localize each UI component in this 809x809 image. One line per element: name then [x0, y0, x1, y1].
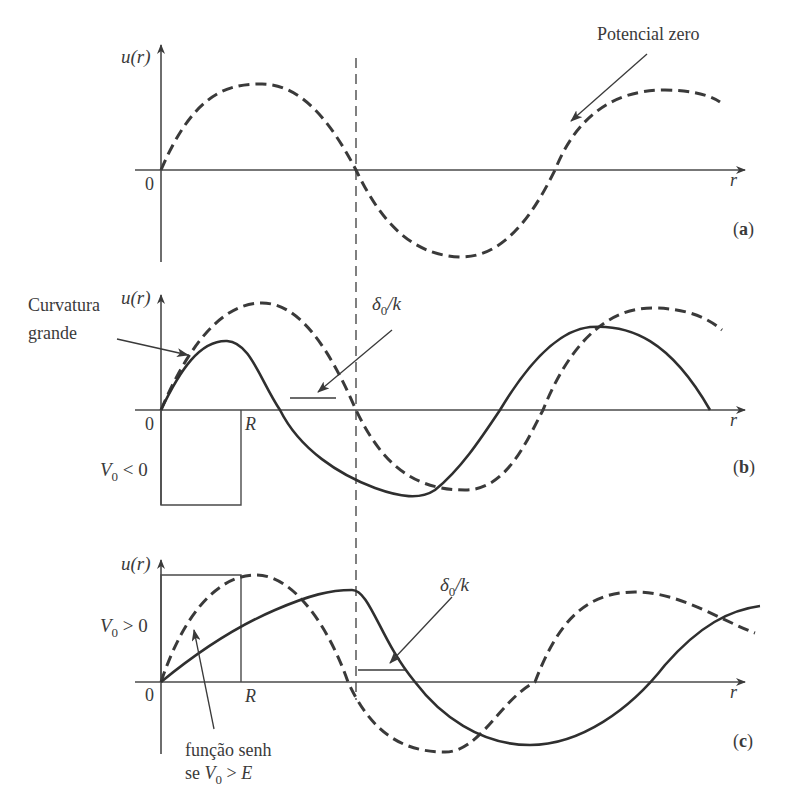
annotation-delta0-over-k: δ0/k — [440, 574, 470, 599]
delta-arrow — [318, 330, 392, 392]
x-axis-label: r — [730, 410, 738, 430]
free-wave-curve — [161, 303, 722, 490]
panel-b: u(r) 0 R r (b) V0 < 0 Curvatura grande δ… — [28, 287, 755, 505]
attractive-well — [161, 410, 241, 505]
y-axis-label: u(r) — [121, 287, 151, 309]
scattering-wavefunction-figure: u(r) 0 r (a) Potencial zero u(r) 0 R r (… — [0, 0, 809, 809]
attractive-wave-curve — [161, 327, 710, 497]
panel-c: u(r) 0 R r (c) V0 > 0 função senh se V0 … — [100, 553, 760, 787]
R-label: R — [244, 414, 256, 434]
barrier-label: V0 > 0 — [100, 615, 148, 640]
well-label: V0 < 0 — [100, 459, 148, 484]
panel-label: (b) — [733, 457, 755, 478]
origin-label: 0 — [145, 685, 154, 705]
x-axis-label: r — [730, 682, 738, 702]
origin-label: 0 — [145, 414, 154, 434]
panel-label: (a) — [733, 219, 754, 240]
x-axis-label: r — [730, 170, 738, 190]
annotation-curvatura-grande: Curvatura grande — [28, 295, 104, 343]
delta-arrow — [390, 597, 452, 663]
origin-label: 0 — [145, 174, 154, 194]
R-label: R — [244, 686, 256, 706]
repulsive-wave-curve — [161, 590, 760, 745]
curvatura-arrow — [117, 339, 188, 355]
panel-a: u(r) 0 r (a) Potencial zero — [121, 24, 754, 262]
annotation-delta0-over-k: δ0/k — [372, 293, 402, 318]
annotation-funcao-senh: função senh se V0 > E — [185, 740, 276, 787]
y-axis-label: u(r) — [121, 553, 151, 575]
annotation-potencial-zero: Potencial zero — [597, 24, 699, 44]
panel-label: (c) — [733, 731, 753, 752]
y-axis-label: u(r) — [121, 46, 151, 68]
annotation-arrow — [571, 54, 647, 121]
